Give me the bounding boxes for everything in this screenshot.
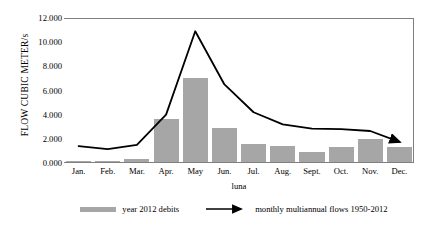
- legend-item-bar: year 2012 debits: [80, 204, 179, 214]
- x-axis-tick-label: May: [181, 166, 210, 180]
- x-axis-baseline: [64, 162, 414, 163]
- x-axis-tick-label: Sept.: [297, 166, 326, 180]
- x-axis-tick-label: Oct.: [327, 166, 356, 180]
- legend-item-line: monthly multiannual flows 1950-2012: [205, 204, 387, 214]
- x-axis-tick-labels: Jan.Feb.Mar.Apr.MayJun.Jul.Aug.Sept.Oct.…: [64, 166, 414, 180]
- x-axis-tick-label: Jul.: [239, 166, 268, 180]
- x-axis-tick-label: Nov.: [356, 166, 385, 180]
- y-axis-tick-label: 12.000: [38, 13, 62, 23]
- legend-arrow-line-icon: [205, 204, 249, 214]
- y-axis-tick-labels: 0.0002.0004.0006.0008.00010.00012.000: [18, 0, 62, 230]
- y-axis-tick-label: 8.000: [43, 61, 62, 71]
- legend-item-line-label: monthly multiannual flows 1950-2012: [255, 204, 387, 214]
- x-axis-tick-label: Jan.: [64, 166, 93, 180]
- x-axis-tick-label: Apr.: [152, 166, 181, 180]
- y-axis-tick-label: 4.000: [43, 110, 62, 120]
- y-axis-tick-label: 2.000: [43, 134, 62, 144]
- x-axis-tick-label: Dec.: [385, 166, 414, 180]
- chart-container: FLOW CUBIC METER/s 0.0002.0004.0006.0008…: [0, 0, 447, 230]
- x-axis-title: luna: [64, 181, 414, 191]
- y-axis-tick-label: 6.000: [43, 86, 62, 96]
- x-axis-tick-label: Mar.: [122, 166, 151, 180]
- y-axis-tick-label: 0.000: [43, 158, 62, 168]
- x-axis-tick-label: Feb.: [93, 166, 122, 180]
- legend-bar-swatch-icon: [80, 207, 116, 212]
- y-axis-tick-label: 10.000: [38, 37, 62, 47]
- plot-area: [64, 18, 414, 163]
- legend-item-bar-label: year 2012 debits: [122, 204, 179, 214]
- x-axis-tick-label: Aug.: [268, 166, 297, 180]
- line-series-monthly-multiannual-flows: [64, 18, 414, 163]
- x-axis-tick-label: Jun.: [210, 166, 239, 180]
- chart-legend: year 2012 debits monthly multiannual flo…: [64, 201, 404, 217]
